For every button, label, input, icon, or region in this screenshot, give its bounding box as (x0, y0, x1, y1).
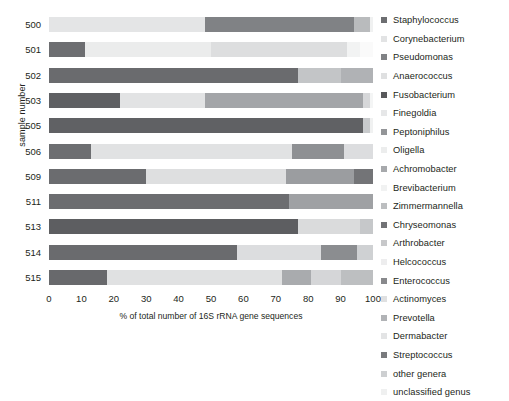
bar-segment[interactable] (370, 17, 373, 32)
x-axis-tick-10: 10 (76, 293, 87, 304)
bar-segment[interactable] (107, 270, 282, 285)
bar-segment[interactable] (347, 42, 360, 57)
stacked-bar[interactable] (49, 68, 373, 83)
bar-segment[interactable] (282, 270, 311, 285)
y-axis-tick-513: 513 (0, 219, 41, 234)
stacked-bar[interactable] (49, 219, 373, 234)
stacked-bar[interactable] (49, 194, 373, 209)
stacked-bar[interactable] (49, 270, 373, 285)
bar-row (49, 93, 373, 108)
bar-row (49, 118, 373, 133)
legend-label: Peptoniphilus (393, 127, 449, 137)
x-axis-tick-90: 90 (335, 293, 346, 304)
bar-segment[interactable] (286, 169, 354, 184)
bar-segment[interactable] (49, 270, 107, 285)
legend-label: Arthrobacter (393, 238, 445, 248)
legend-label: Chryseomonas (393, 220, 456, 230)
bar-segment[interactable] (360, 42, 373, 57)
stacked-bar[interactable] (49, 169, 373, 184)
bar-segment[interactable] (289, 194, 373, 209)
bar-segment[interactable] (49, 93, 120, 108)
legend-item[interactable]: Enterococcus (381, 271, 509, 290)
legend-label: Achromobacter (393, 164, 457, 174)
legend-swatch-icon (381, 203, 387, 209)
x-axis-tick-50: 50 (206, 293, 217, 304)
legend-label: Actinomyces (393, 294, 446, 304)
bar-rows (49, 12, 373, 290)
bar-segment[interactable] (49, 144, 91, 159)
legend-item[interactable]: Corynebacterium (381, 30, 509, 49)
bar-row (49, 270, 373, 285)
legend-label: Finegoldia (393, 108, 436, 118)
bar-segment[interactable] (85, 42, 211, 57)
bar-row (49, 17, 373, 32)
legend-label: Corynebacterium (393, 34, 465, 44)
bar-segment[interactable] (49, 219, 298, 234)
y-axis-tick-503: 503 (0, 93, 41, 108)
bar-segment[interactable] (298, 68, 340, 83)
bar-segment[interactable] (298, 219, 360, 234)
legend-item[interactable]: Actinomyces (381, 290, 509, 309)
bar-segment[interactable] (49, 68, 298, 83)
legend-item[interactable]: Anaerococcus (381, 67, 509, 86)
legend-item[interactable]: Streptococcus (381, 346, 509, 365)
bar-segment[interactable] (321, 245, 357, 260)
bar-segment[interactable] (120, 93, 204, 108)
legend-item[interactable]: Dermabacter (381, 327, 509, 346)
legend-item[interactable]: Arthrobacter (381, 234, 509, 253)
legend-item[interactable]: Prevotella (381, 309, 509, 328)
bar-segment[interactable] (146, 169, 285, 184)
bar-segment[interactable] (237, 245, 321, 260)
x-axis-tick-30: 30 (141, 293, 152, 304)
legend-item[interactable]: Zimmermannella (381, 197, 509, 216)
legend-item[interactable]: Helcococcus (381, 253, 509, 272)
legend-item[interactable]: Staphylococcus (381, 11, 509, 30)
y-axis-tick-509: 509 (0, 169, 41, 184)
bar-segment[interactable] (91, 144, 292, 159)
stacked-bar[interactable] (49, 144, 373, 159)
bar-segment[interactable] (341, 68, 373, 83)
bar-segment[interactable] (49, 194, 289, 209)
legend-swatch-icon (381, 73, 387, 79)
bar-segment[interactable] (49, 17, 205, 32)
legend-item[interactable]: Brevibacterium (381, 178, 509, 197)
bar-segment[interactable] (292, 144, 344, 159)
stacked-bar[interactable] (49, 17, 373, 32)
legend-item[interactable]: Finegoldia (381, 104, 509, 123)
bar-row (49, 219, 373, 234)
bar-segment[interactable] (311, 270, 340, 285)
bar-segment[interactable] (357, 245, 373, 260)
bar-segment[interactable] (49, 245, 237, 260)
stacked-bar[interactable] (49, 42, 373, 57)
legend-item[interactable]: Oligella (381, 141, 509, 160)
legend-swatch-icon (381, 315, 387, 321)
bar-segment[interactable] (360, 219, 373, 234)
bar-segment[interactable] (49, 42, 85, 57)
bar-segment[interactable] (341, 270, 373, 285)
legend-item[interactable]: Achromobacter (381, 160, 509, 179)
legend-swatch-icon (381, 389, 387, 395)
bar-segment[interactable] (205, 17, 354, 32)
legend-item[interactable]: unclassified genus (381, 383, 509, 401)
legend-item[interactable]: Fusobacterium (381, 85, 509, 104)
y-axis-tick-505: 505 (0, 118, 41, 133)
bar-segment[interactable] (370, 93, 373, 108)
legend-item[interactable]: other genera (381, 364, 509, 383)
bar-segment[interactable] (370, 118, 373, 133)
bar-segment[interactable] (211, 42, 347, 57)
bar-segment[interactable] (49, 169, 146, 184)
legend-item[interactable]: Pseudomonas (381, 48, 509, 67)
bar-segment[interactable] (344, 144, 373, 159)
stacked-bar[interactable] (49, 93, 373, 108)
stacked-bar[interactable] (49, 245, 373, 260)
bar-segment[interactable] (205, 93, 364, 108)
legend-swatch-icon (381, 296, 387, 302)
legend-item[interactable]: Chryseomonas (381, 216, 509, 235)
legend-item[interactable]: Peptoniphilus (381, 123, 509, 142)
bar-segment[interactable] (354, 17, 370, 32)
y-axis-tick-515: 515 (0, 270, 41, 285)
legend-swatch-icon (381, 129, 387, 135)
bar-segment[interactable] (354, 169, 373, 184)
bar-segment[interactable] (49, 118, 363, 133)
stacked-bar[interactable] (49, 118, 373, 133)
